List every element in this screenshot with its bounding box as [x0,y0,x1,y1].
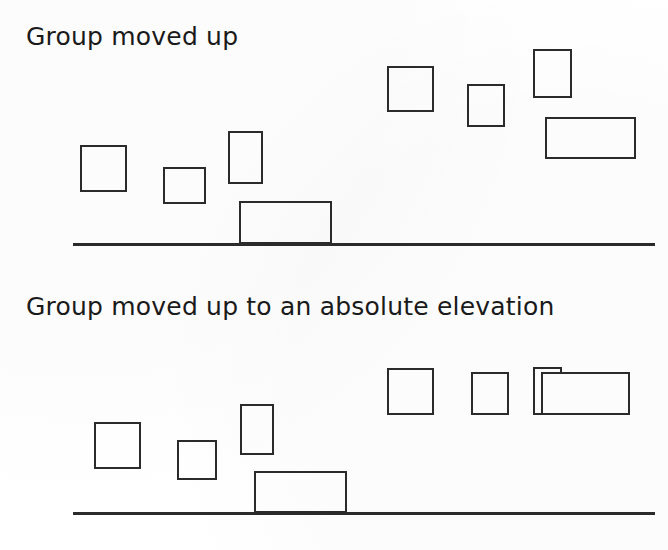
panel-bottom-ground-line [73,512,655,515]
panel-group-moved-up-absolute: Group moved up to an absolute elevation [0,270,668,550]
box-left-3 [240,404,274,455]
box-right-2 [471,372,509,415]
box-right-3 [533,49,572,98]
box-left-1 [94,422,141,469]
box-right-4 [545,117,636,159]
panel-bottom-caption: Group moved up to an absolute elevation [26,294,554,319]
box-left-4 [254,471,347,513]
box-right-2 [467,84,505,127]
panel-group-moved-up: Group moved up [0,0,668,270]
box-left-1 [80,145,127,192]
box-right-4 [541,372,630,415]
panel-top-ground-line [73,243,655,246]
diagram-canvas: Group moved up Group moved up to an abso… [0,0,668,550]
box-right-1 [387,368,434,415]
box-left-2 [177,440,217,480]
box-right-1 [387,66,434,112]
box-left-4 [239,201,332,244]
panel-top-caption: Group moved up [26,24,238,49]
box-left-3 [228,131,263,184]
box-left-2 [163,167,206,204]
